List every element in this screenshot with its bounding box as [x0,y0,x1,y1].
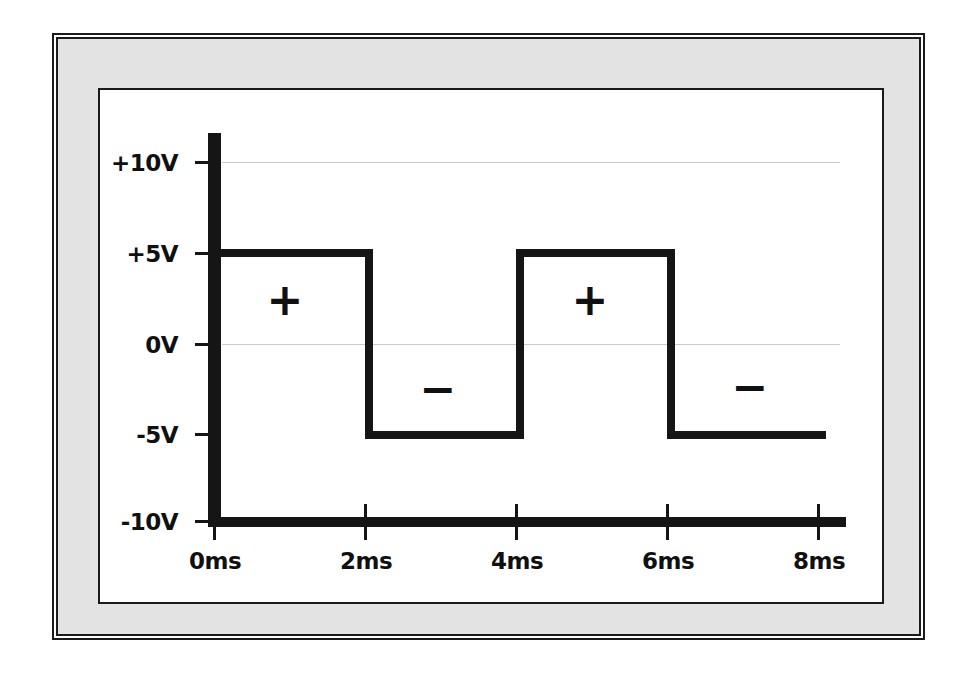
chart-panel [98,88,884,604]
figure-root: +10V +5V 0V -5V -10V 0ms 2ms 4ms 6ms 8ms… [0,0,969,675]
